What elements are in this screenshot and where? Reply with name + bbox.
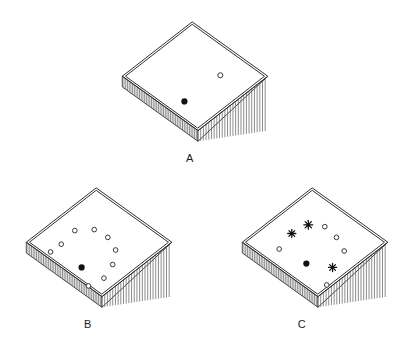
open-circle-marker [86, 284, 91, 289]
open-circle-marker [72, 228, 77, 233]
open-circle-marker [102, 276, 107, 281]
open-circle-marker [92, 227, 97, 232]
open-circle-marker [324, 283, 329, 288]
filled-dot-marker [181, 98, 187, 104]
wedge-shape-b [22, 184, 182, 316]
asterisk-marker [288, 229, 296, 237]
open-circle-marker [48, 250, 53, 255]
open-circle-marker [342, 249, 347, 254]
wedge-shape-c [238, 184, 398, 316]
open-circle-marker [110, 262, 115, 267]
open-circle-marker [277, 247, 282, 252]
open-circle-marker [59, 242, 64, 247]
open-circle-marker [334, 235, 339, 240]
open-circle-marker [113, 248, 118, 253]
open-circle-marker [105, 235, 110, 240]
filled-dot-marker [303, 260, 309, 266]
open-circle-marker [322, 224, 327, 229]
panel-label-b: B [73, 318, 103, 330]
asterisk-marker [328, 263, 336, 271]
asterisk-marker [304, 220, 313, 229]
wedge-shape-a [118, 18, 278, 150]
open-circle-marker [218, 73, 223, 78]
panel-label-c: C [287, 318, 317, 330]
filled-dot-marker [79, 264, 85, 270]
panel-label-a: A [175, 152, 205, 164]
